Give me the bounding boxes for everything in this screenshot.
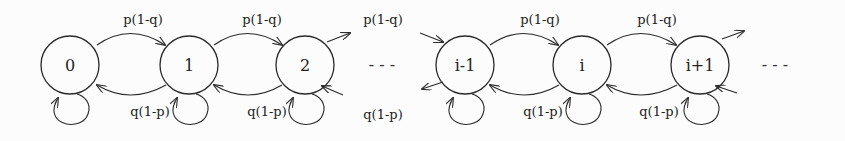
ellipsis-middle: - - - [369, 55, 395, 74]
edge-label-1-2: p(1-q) [242, 12, 281, 27]
state-1: 1 [160, 36, 218, 94]
edge-i-minus-1-out [422, 82, 443, 89]
edge-i-to-i-minus-1 [490, 85, 559, 95]
state-label: i [579, 56, 584, 75]
state-label: i+1 [686, 56, 715, 75]
state-0: 0 [41, 36, 99, 94]
edge-i-to-i-plus-1 [607, 34, 676, 46]
self-loop-2 [289, 94, 324, 124]
state-i-minus-1: i-1 [436, 36, 494, 94]
edge-1-to-0 [97, 85, 166, 95]
state-label: i-1 [455, 56, 476, 75]
ellipsis-end: - - - [762, 55, 788, 74]
self-loop-i-plus-1 [684, 94, 719, 124]
self-loop-i-head [567, 98, 570, 104]
self-loop-i-plus-1-head [685, 98, 688, 104]
edge-label-1-0: q(1-p) [130, 104, 169, 119]
self-loop-0 [54, 94, 89, 124]
edge-label-i-i-plus-1: p(1-q) [637, 12, 676, 27]
edge-in-i-plus-1 [716, 86, 737, 93]
self-loop-i [566, 94, 601, 124]
self-loop-i-minus-1 [449, 94, 484, 124]
state-i: i [553, 36, 611, 94]
state-label: 1 [184, 56, 194, 75]
edge-i-plus-1-to-i [607, 85, 677, 95]
state-label: 2 [300, 56, 310, 75]
state-label: 0 [65, 56, 75, 75]
edge-2-out [327, 33, 350, 42]
edge-i-minus-1-to-i [490, 34, 558, 46]
edge-label-i-plus-1-i: q(1-p) [639, 104, 678, 119]
self-loop-2-head [290, 98, 293, 104]
edge-in-i-minus-1 [420, 33, 443, 42]
edge-1-to-2 [214, 34, 282, 46]
state-i-plus-1: i+1 [671, 36, 729, 94]
edge-label-i-minus-1-i: p(1-q) [520, 12, 559, 27]
edge-label-0-1: p(1-q) [123, 12, 162, 27]
edge-in-2 [322, 86, 343, 95]
edge-label-2-1: q(1-p) [247, 104, 286, 119]
self-loop-i-minus-1-head [450, 98, 453, 104]
edge-i-plus-1-out [722, 31, 744, 39]
self-loop-1-head [174, 98, 177, 104]
markov-chain-diagram: 0 1 2 i-1 i i+1 p(1-q) [0, 0, 845, 141]
edge-label-2-out: p(1-q) [363, 12, 402, 27]
edge-label-i-i-minus-1: q(1-p) [523, 104, 562, 119]
edge-0-to-1 [97, 34, 165, 46]
self-loop-0-head [55, 98, 58, 104]
self-loop-1 [173, 94, 208, 124]
edge-label-in-2: q(1-p) [363, 107, 402, 122]
state-2: 2 [276, 36, 334, 94]
edge-2-to-1 [214, 85, 282, 95]
